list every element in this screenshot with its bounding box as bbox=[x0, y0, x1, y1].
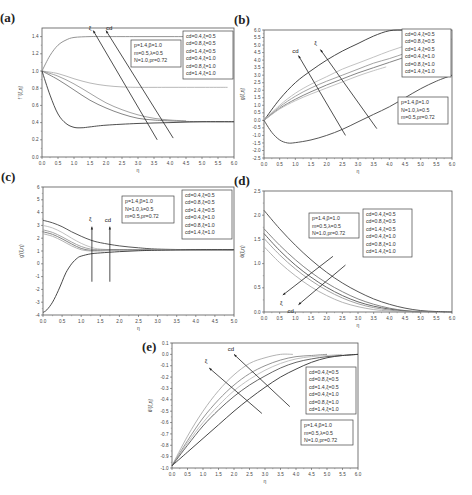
legend-entry: cd=0.8,ξ=1.0 bbox=[185, 222, 215, 228]
x-axis: 0.00.51.01.52.02.53.03.54.04.55.0η bbox=[40, 315, 238, 331]
y-tick-label: 0.8 bbox=[32, 86, 39, 91]
x-tick-label: 2.0 bbox=[231, 472, 238, 477]
x-tick-label: 3.5 bbox=[151, 161, 158, 166]
y-tick-label: 4 bbox=[37, 210, 40, 215]
legend-entry: cd=1.4,ξ=1.0 bbox=[186, 70, 216, 76]
x-tick-label: 2.0 bbox=[116, 319, 123, 324]
y-tick-label: -1.5 bbox=[253, 141, 261, 146]
y-axis-title: f '(ξ,η) bbox=[17, 85, 24, 99]
x-tick-label: 0.0 bbox=[40, 319, 47, 324]
legend-entry: cd=1.4,ξ=1.0 bbox=[366, 248, 396, 254]
x-axis-title: η bbox=[357, 322, 360, 328]
arrow-label: ξ bbox=[89, 216, 92, 222]
x-tick-label: 1.0 bbox=[71, 161, 78, 166]
x-tick-label: 3.0 bbox=[355, 162, 362, 167]
y-axis: 0.00.20.40.60.81.01.21.4f '(ξ,η) bbox=[17, 34, 42, 159]
y-tick-label: -4 bbox=[35, 313, 40, 318]
arrow-label: ξ bbox=[89, 25, 92, 31]
x-tick-label: 1.5 bbox=[215, 472, 222, 477]
x-tick-label: 1.0 bbox=[292, 316, 299, 321]
x-tick-label: 2.5 bbox=[339, 316, 346, 321]
y-tick-label: -1 bbox=[35, 274, 40, 279]
x-tick-label: 5.0 bbox=[324, 472, 331, 477]
y-tick-label: 0.0 bbox=[254, 118, 261, 123]
x-tick-label: 0.5 bbox=[276, 162, 283, 167]
y-tick-label: 0.6 bbox=[32, 103, 39, 108]
panel-label: (c) bbox=[1, 169, 15, 184]
y-axis-title: θ(ξ,η) bbox=[239, 245, 246, 258]
parameter-text: p=1.4,β=1.0 bbox=[304, 422, 332, 428]
x-tick-label: 5.0 bbox=[231, 319, 238, 324]
parameter-text: p=1.4,β=1.0 bbox=[125, 198, 153, 204]
x-tick-label: 4.0 bbox=[386, 162, 393, 167]
x-tick-label: 1.5 bbox=[87, 161, 94, 166]
x-tick-label: 2.0 bbox=[323, 316, 330, 321]
parameter-text: m=0.5,pr=0.72 bbox=[125, 213, 159, 219]
x-axis: 0.00.51.01.52.02.53.03.54.04.55.05.56.0η bbox=[261, 312, 456, 328]
y-tick-label: 1.5 bbox=[254, 95, 261, 100]
y-tick-label: -0.5 bbox=[161, 409, 169, 414]
legend-entry: cd=1.4,ξ=0.5 bbox=[405, 46, 435, 52]
x-tick-label: 1.5 bbox=[308, 316, 315, 321]
x-tick-label: 4.5 bbox=[402, 316, 409, 321]
y-tick-label: -0.5 bbox=[253, 125, 261, 130]
x-axis-title: η bbox=[137, 325, 140, 331]
x-tick-label: 1.5 bbox=[97, 319, 104, 324]
parameter-text: N=1.0,pr=0.72 bbox=[134, 57, 167, 63]
y-tick-label: 2.5 bbox=[254, 189, 261, 194]
legend: cd=0.4,ξ=0.5cd=0.8,ξ=0.5cd=1.4,ξ=0.5cd=0… bbox=[402, 29, 451, 77]
y-tick-label: 2.0 bbox=[254, 88, 261, 93]
y-tick-label: 3.5 bbox=[254, 65, 261, 70]
legend-entry: cd=1.4,ξ=1.0 bbox=[405, 68, 435, 74]
parameter-text: p=1.4,β=1.0 bbox=[401, 99, 429, 105]
panel-c: (c)0.00.51.01.52.02.53.03.54.04.55.0η-4-… bbox=[1, 169, 238, 331]
arrow-label: ξ bbox=[314, 40, 317, 46]
y-tick-label: -2.5 bbox=[253, 156, 261, 161]
y-tick-label: 0.0 bbox=[254, 310, 261, 315]
x-tick-label: 3.0 bbox=[262, 472, 269, 477]
x-tick-label: 5.5 bbox=[433, 162, 440, 167]
x-tick-label: 2.5 bbox=[135, 319, 142, 324]
x-tick-label: 5.5 bbox=[433, 316, 440, 321]
y-tick-label: -2.0 bbox=[253, 148, 261, 153]
x-axis: 0.00.51.01.52.02.53.03.54.04.55.05.56.0η bbox=[169, 468, 362, 484]
parameters-box: p=1.4,β=1.0m=0.5,λ=0.5N=1.0,pr=0.72 bbox=[131, 40, 181, 67]
legend-entry: cd=0.4,ξ=1.0 bbox=[405, 53, 435, 59]
x-tick-label: 6.0 bbox=[355, 472, 362, 477]
panel-label: (b) bbox=[234, 12, 250, 27]
y-tick-label: 2.5 bbox=[254, 80, 261, 85]
y-tick-label: 0.4 bbox=[32, 120, 39, 125]
y-tick-label: 1.2 bbox=[32, 51, 39, 56]
legend-entry: cd=1.4,ξ=0.5 bbox=[185, 207, 215, 213]
legend-entry: cd=1.4,ξ=0.5 bbox=[309, 384, 339, 390]
x-tick-label: 5.0 bbox=[199, 161, 206, 166]
legend-entry: cd=0.4,ξ=0.5 bbox=[185, 192, 215, 198]
parameter-text: p=1.4,β=1.0 bbox=[312, 215, 340, 221]
legend: cd=0.4,ξ=0.5cd=0.8,ξ=0.5cd=1.4,ξ=0.5cd=0… bbox=[183, 31, 233, 79]
legend-entry: cd=1.4,ξ=1.0 bbox=[185, 229, 215, 235]
x-tick-label: 4.0 bbox=[386, 316, 393, 321]
y-tick-label: -1.0 bbox=[253, 133, 261, 138]
arrow-label: ξ bbox=[280, 300, 283, 306]
arrow-label: ξ bbox=[205, 358, 208, 364]
y-tick-label: 1.0 bbox=[32, 69, 39, 74]
x-tick-label: 6.0 bbox=[449, 162, 456, 167]
y-tick-label: -0.6 bbox=[161, 420, 169, 425]
y-tick-label: 4.0 bbox=[254, 58, 261, 63]
x-tick-label: 6.0 bbox=[231, 161, 238, 166]
x-tick-label: 5.0 bbox=[417, 316, 424, 321]
panel-d: (d)0.00.51.01.52.02.53.03.54.04.55.05.56… bbox=[234, 173, 456, 328]
legend-entry: cd=0.4,ξ=1.0 bbox=[185, 214, 215, 220]
legend-entry: cd=0.8,ξ=0.5 bbox=[185, 199, 215, 205]
y-tick-label: -0.4 bbox=[161, 397, 169, 402]
x-tick-label: 3.0 bbox=[154, 319, 161, 324]
x-tick-label: 0.5 bbox=[55, 161, 62, 166]
parameter-text: p=1.4,β=1.0 bbox=[134, 42, 162, 48]
y-axis-title: g'(ξ,η) bbox=[18, 244, 25, 258]
parameter-text: N=1.0,λ=0.5 bbox=[401, 107, 429, 113]
legend-entry: cd=0.8,ξ=0.5 bbox=[186, 40, 216, 46]
x-tick-label: 3.0 bbox=[135, 161, 142, 166]
legend-entry: cd=0.8,ξ=1.0 bbox=[366, 241, 396, 247]
x-axis-title: η bbox=[264, 478, 267, 484]
parameter-text: m=0.5,pr=0.72 bbox=[401, 114, 435, 120]
